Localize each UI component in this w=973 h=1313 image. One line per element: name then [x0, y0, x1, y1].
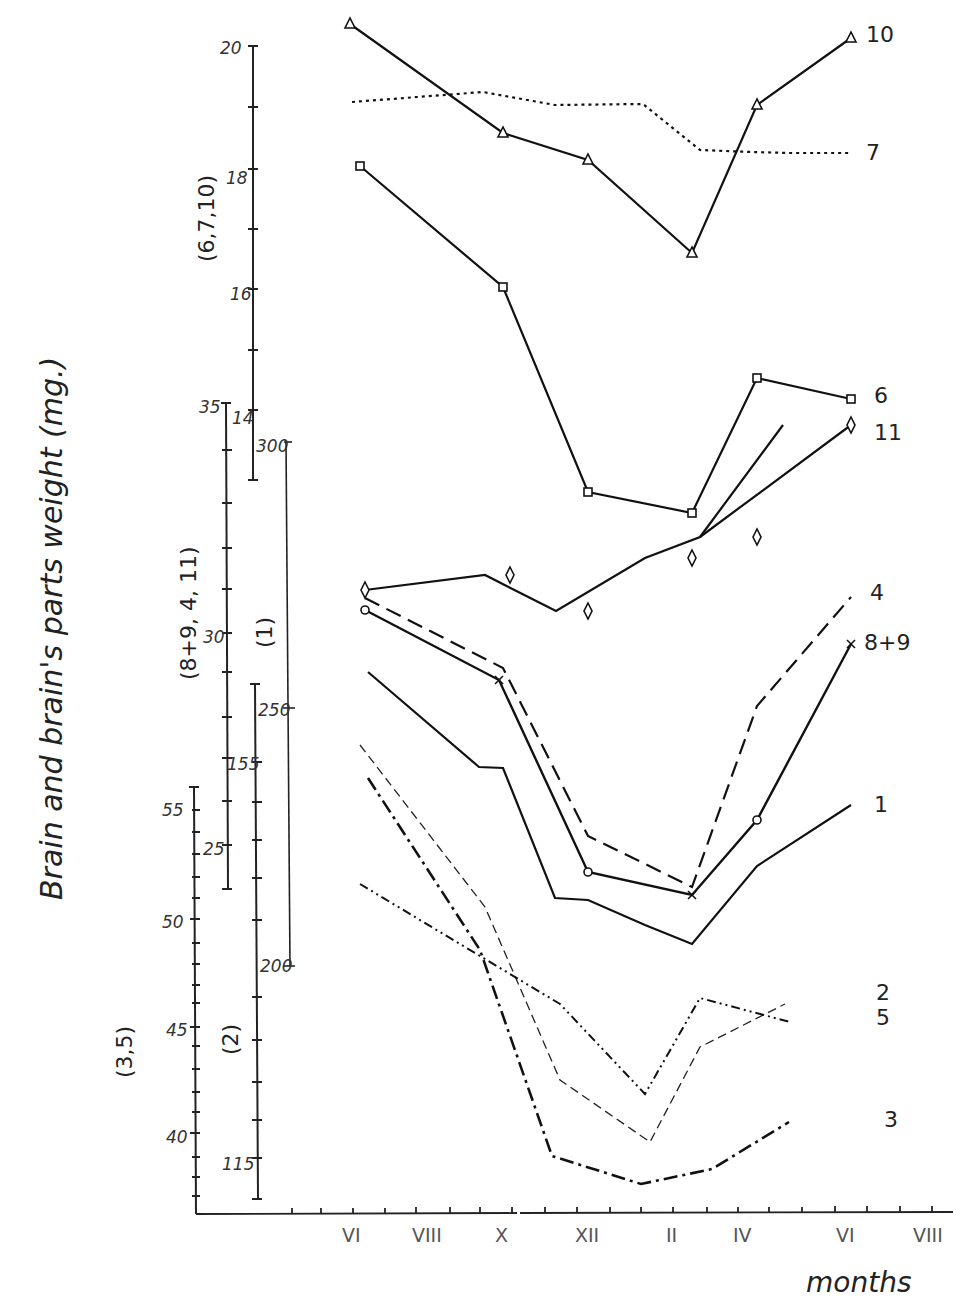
month-label: VI [342, 1224, 361, 1246]
series-4 [365, 597, 851, 887]
series-label-3: 3 [884, 1107, 898, 1132]
series-label-10: 10 [866, 22, 894, 47]
series-label-4: 4 [870, 580, 884, 605]
tick-label: 18 [226, 168, 248, 188]
tick-label: 45 [166, 1020, 188, 1040]
axis-group-label-3-5: (3,5) [112, 1026, 137, 1078]
axis-3-5 [189, 787, 200, 1214]
series-label-6: 6 [874, 383, 888, 408]
axis-group-label-1: (1) [252, 617, 277, 648]
x-tick-labels: VI VIII X XII II IV VI VIII [342, 1224, 943, 1246]
month-label: IV [733, 1224, 752, 1246]
month-label: VI [836, 1224, 855, 1246]
tick-label: 20 [220, 38, 242, 58]
tick-label: 200 [260, 956, 292, 976]
series-3 [368, 778, 789, 1184]
x-axis-title: months [806, 1266, 911, 1299]
tick-label: 14 [232, 408, 254, 428]
month-label: II [666, 1224, 677, 1246]
axis-group-label-2: (2) [218, 1024, 243, 1055]
tick-label: 300 [256, 436, 288, 456]
series-11 [361, 417, 855, 619]
tick-label: 50 [162, 912, 184, 932]
y-axis-title: Brain and brain's parts weight (mg.) [34, 357, 69, 900]
series-1-smooth [368, 672, 851, 944]
tick-label: 30 [203, 627, 225, 647]
axis-group-label-8p9-4-11: (8+9, 4, 11) [176, 546, 201, 680]
series-label-8p9: 8+9 [864, 630, 910, 655]
tick-label: 16 [230, 284, 252, 304]
tick-label: 115 [222, 1154, 254, 1174]
series-6 [356, 162, 855, 517]
month-label: VIII [412, 1224, 442, 1246]
month-label: XII [575, 1224, 599, 1246]
tick-label: 35 [199, 397, 221, 417]
series-5 [360, 884, 790, 1094]
tick-label: 55 [162, 800, 184, 820]
series-label-1: 1 [874, 792, 888, 817]
month-label: VIII [913, 1224, 943, 1246]
series-label-7: 7 [866, 140, 880, 165]
series-2 [360, 745, 785, 1142]
tick-label: 25 [203, 839, 225, 859]
series-10 [345, 18, 856, 257]
series-7 [352, 92, 851, 153]
axis-group-label-6-7-10: (6,7,10) [194, 175, 219, 262]
series-label-5: 5 [876, 1005, 890, 1030]
series-8p9 [361, 606, 855, 899]
tick-label: 250 [258, 700, 290, 720]
chart: Brain and brain's parts weight (mg.) 20 … [0, 0, 973, 1313]
series-1 [368, 672, 851, 944]
tick-label: 155 [227, 754, 259, 774]
series-label-11: 11 [874, 420, 902, 445]
series-label-2: 2 [876, 980, 890, 1005]
tick-label: 40 [166, 1127, 188, 1147]
x-axis [196, 1206, 953, 1214]
month-label: X [495, 1224, 508, 1246]
